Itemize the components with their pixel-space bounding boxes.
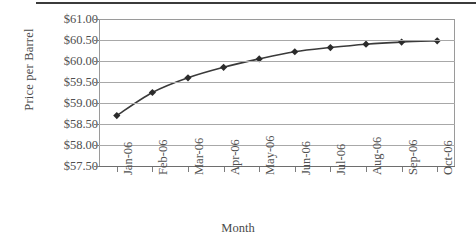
y-axis-tick-mark — [94, 82, 99, 83]
x-axis-tick-mark — [402, 167, 403, 172]
y-axis-tick-label: $61.00 — [22, 13, 98, 25]
x-axis-title: Month — [0, 221, 476, 236]
y-axis-tick-mark — [94, 166, 99, 167]
x-axis-tick-label: Oct-06 — [442, 140, 455, 175]
gridline — [99, 82, 455, 83]
series-markers — [113, 37, 441, 119]
x-axis-tick-label: Apr-06 — [229, 139, 242, 175]
series-path — [117, 41, 437, 116]
y-axis-tick-label: $57.50 — [22, 160, 98, 172]
x-axis-tick-label: Mar-06 — [193, 138, 206, 175]
y-axis-tick-mark — [94, 124, 99, 125]
data-point-marker — [220, 64, 227, 71]
x-axis-tick-mark — [295, 167, 296, 172]
y-axis-tick-labels: $61.00$60.50$60.00$59.50$59.00$58.50$58.… — [22, 0, 98, 241]
y-axis-tick-label: $59.50 — [22, 76, 98, 88]
y-axis-tick-mark — [94, 145, 99, 146]
data-point-marker — [362, 41, 369, 48]
x-axis-tick-label: Jun-06 — [300, 141, 313, 175]
y-axis-tick-label: $60.00 — [22, 55, 98, 67]
gridline — [99, 40, 455, 41]
x-axis-tick-mark — [259, 167, 260, 172]
y-axis-tick-label: $58.00 — [22, 139, 98, 151]
y-axis-tick-mark — [94, 103, 99, 104]
x-axis-tick-label: Feb-06 — [157, 140, 170, 175]
y-axis-tick-mark — [94, 61, 99, 62]
x-axis-tick-mark — [224, 167, 225, 172]
gridline — [99, 61, 455, 62]
y-axis-tick-label: $58.50 — [22, 118, 98, 130]
data-point-marker — [149, 89, 156, 96]
x-axis-tick-mark — [437, 167, 438, 172]
x-axis-tick-mark — [152, 167, 153, 172]
x-axis-tick-mark — [330, 167, 331, 172]
y-axis-tick-mark — [94, 40, 99, 41]
y-axis-tick-mark — [94, 19, 99, 20]
y-axis-tick-label: $60.50 — [22, 34, 98, 46]
x-axis-tick-mark — [366, 167, 367, 172]
gridline — [99, 124, 455, 125]
x-axis-tick-label: May-06 — [264, 135, 277, 175]
plot-area — [99, 19, 455, 166]
line-chart-figure: Price per Barrel $61.00$60.50$60.00$59.5… — [0, 0, 476, 241]
x-axis-tick-mark — [188, 167, 189, 172]
data-point-marker — [184, 74, 191, 81]
data-point-marker — [327, 44, 334, 51]
gridline — [99, 103, 455, 104]
x-axis-tick-label: Jul-06 — [335, 144, 348, 175]
x-axis-tick-mark — [117, 167, 118, 172]
x-axis-tick-label: Jan-06 — [122, 142, 135, 175]
x-axis-tick-label: Aug-06 — [371, 137, 384, 175]
series-line-price-per-barrel — [99, 19, 455, 166]
data-point-marker — [291, 48, 298, 55]
gridline — [99, 145, 455, 146]
y-axis-tick-label: $59.00 — [22, 97, 98, 109]
x-axis-tick-label: Sep-06 — [407, 140, 420, 175]
page-top-rule — [36, 2, 476, 4]
